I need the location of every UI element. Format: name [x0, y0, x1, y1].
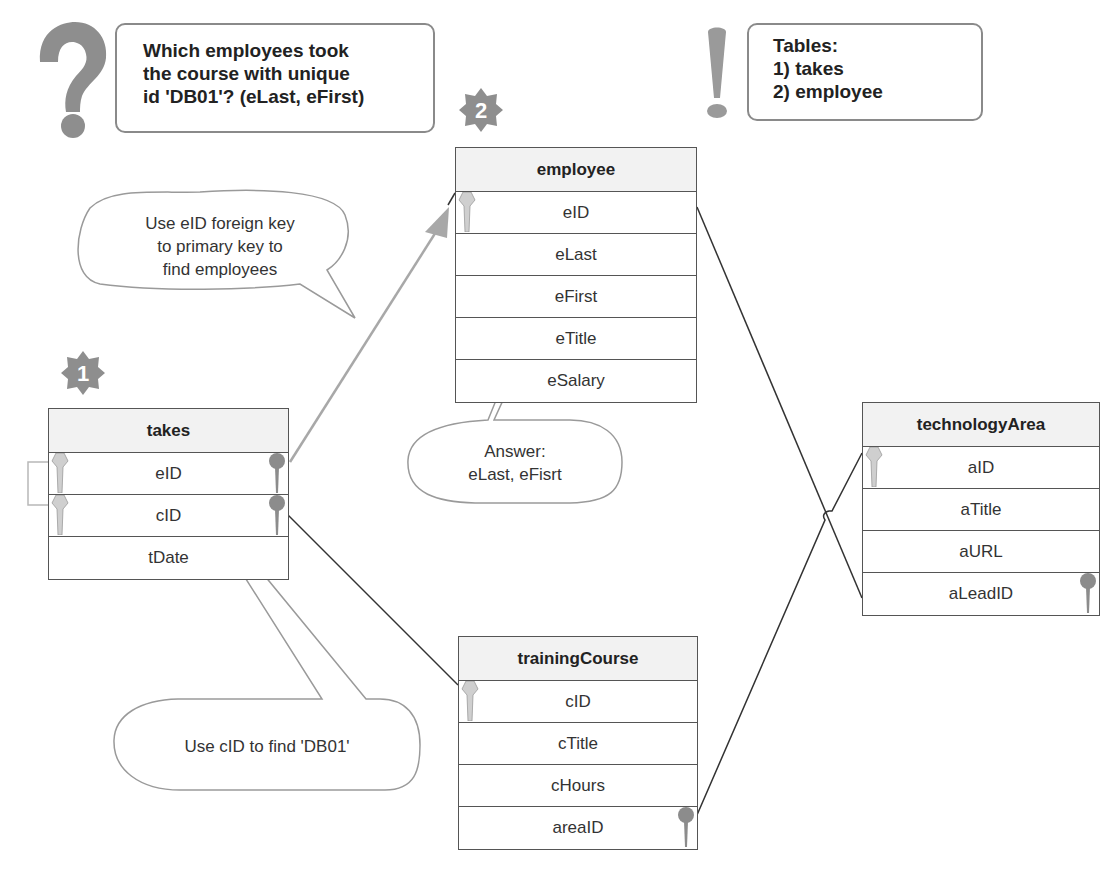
- field-row[interactable]: aURL: [863, 531, 1099, 573]
- field-row[interactable]: cID: [49, 495, 288, 537]
- callout-foreign-key-text: Use eID foreign key to primary key to fi…: [100, 212, 340, 281]
- step-2-badge: 2: [459, 88, 503, 132]
- question-note: Which employees took the course with uni…: [115, 23, 435, 133]
- primary-key-icon: [461, 681, 479, 721]
- field-row[interactable]: aLeadID: [863, 573, 1099, 615]
- table-title: technologyArea: [863, 403, 1099, 447]
- field-row[interactable]: tDate: [49, 537, 288, 579]
- callout-line: find employees: [100, 258, 340, 281]
- field-name: eTitle: [556, 329, 597, 349]
- field-name: aID: [968, 458, 994, 478]
- foreign-key-icon: [1079, 573, 1097, 613]
- field-name: cTitle: [558, 734, 598, 754]
- field-name: aLeadID: [949, 584, 1013, 604]
- tables-note: Tables: 1) takes 2) employee: [747, 23, 983, 121]
- table-title: employee: [456, 148, 696, 192]
- question-line: the course with unique: [143, 62, 433, 85]
- field-row[interactable]: cHours: [459, 765, 697, 807]
- takes-composite-key-bracket: [28, 462, 48, 505]
- table-trainingcourse[interactable]: trainingCourse cID cTitle cHours areaID: [458, 636, 698, 850]
- primary-key-icon: [865, 447, 883, 487]
- field-row[interactable]: cTitle: [459, 723, 697, 765]
- exclamation-icon: [707, 28, 727, 119]
- field-row[interactable]: eID: [49, 453, 288, 495]
- field-row[interactable]: eTitle: [456, 318, 696, 360]
- callout-line: to primary key to: [100, 235, 340, 258]
- callout-line: eLast, eFisrt: [410, 463, 620, 486]
- tables-note-line: Tables:: [773, 34, 981, 57]
- field-row[interactable]: eLast: [456, 234, 696, 276]
- field-name: eID: [563, 203, 589, 223]
- foreign-key-icon: [268, 453, 286, 493]
- field-name: eID: [155, 464, 181, 484]
- table-takes[interactable]: takes eID cID tDate: [48, 408, 289, 580]
- field-name: aURL: [959, 542, 1002, 562]
- callout-line: Use eID foreign key: [100, 212, 340, 235]
- field-name: cID: [565, 692, 591, 712]
- step-1-badge: 1: [61, 351, 105, 395]
- primary-key-icon: [51, 453, 69, 493]
- field-name: eLast: [555, 245, 597, 265]
- question-line: Which employees took: [143, 39, 433, 62]
- field-name: cHours: [551, 776, 605, 796]
- field-row[interactable]: cID: [459, 681, 697, 723]
- field-name: aTitle: [961, 500, 1002, 520]
- field-name: tDate: [148, 548, 189, 568]
- rel-employee-to-technologyarea-lead: [697, 207, 862, 598]
- field-row[interactable]: areaID: [459, 807, 697, 849]
- field-row[interactable]: eID: [456, 192, 696, 234]
- question-mark-icon: [40, 22, 106, 138]
- table-employee[interactable]: employee eID eLast eFirst eTitle eSalary: [455, 147, 697, 403]
- field-name: eFirst: [555, 287, 598, 307]
- field-row[interactable]: eSalary: [456, 360, 696, 402]
- primary-key-icon: [458, 192, 476, 232]
- table-technologyarea[interactable]: technologyArea aID aTitle aURL aLeadID: [862, 402, 1100, 616]
- svg-text:2: 2: [475, 98, 487, 123]
- field-name: eSalary: [547, 371, 605, 391]
- callout-cid-text: Use cID to find 'DB01': [114, 735, 420, 758]
- field-name: areaID: [552, 818, 603, 838]
- table-title: takes: [49, 409, 288, 453]
- field-name: cID: [156, 506, 182, 526]
- callout-answer-text: Answer: eLast, eFisrt: [410, 440, 620, 486]
- tables-note-line: 1) takes: [773, 57, 981, 80]
- tables-note-line: 2) employee: [773, 80, 981, 103]
- rel-trainingcourse-areaid-to-technologyarea: [697, 453, 862, 815]
- question-line: id 'DB01'? (eLast, eFirst): [143, 85, 433, 108]
- primary-key-icon: [51, 495, 69, 535]
- field-row[interactable]: eFirst: [456, 276, 696, 318]
- svg-text:1: 1: [77, 361, 89, 386]
- field-row[interactable]: aID: [863, 447, 1099, 489]
- foreign-key-icon: [268, 495, 286, 535]
- callout-line: Answer:: [410, 440, 620, 463]
- field-row[interactable]: aTitle: [863, 489, 1099, 531]
- callout-line: Use cID to find 'DB01': [114, 735, 420, 758]
- foreign-key-icon: [677, 807, 695, 847]
- table-title: trainingCourse: [459, 637, 697, 681]
